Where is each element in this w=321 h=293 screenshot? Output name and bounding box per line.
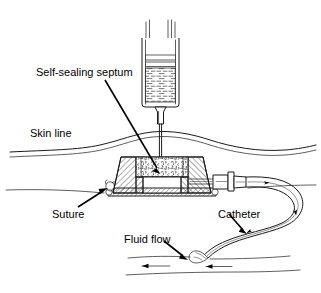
port-housing — [106, 157, 218, 196]
port-base-plate — [108, 188, 216, 196]
label-catheter: Catheter — [218, 208, 261, 220]
label-self-sealing-septum: Self-sealing septum — [36, 66, 133, 78]
port-diagram-figure: Self-sealing septum Skin line Suture Cat… — [0, 0, 321, 293]
label-suture: Suture — [52, 208, 84, 220]
label-skin-line: Skin line — [30, 127, 72, 139]
self-sealing-septum — [136, 157, 188, 177]
label-fluid-flow: Fluid flow — [124, 233, 171, 245]
diagram-canvas: Self-sealing septum Skin line Suture Cat… — [0, 0, 321, 293]
base-plate-knob-right — [212, 189, 218, 195]
syringe-fluid — [146, 68, 176, 102]
